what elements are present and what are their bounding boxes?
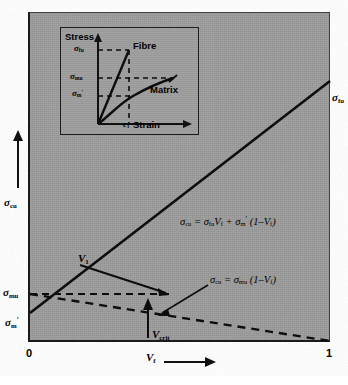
- y-tick-sigma-fu: σfu: [332, 92, 344, 104]
- matrix-equation: σcu = σmu (1–Vf): [210, 275, 276, 286]
- y-tick-sigma-mu: σmu: [3, 287, 18, 299]
- inset-sigma-m-prime-tick: σm′: [72, 89, 83, 99]
- inset-strain-axis-label: Strain: [133, 120, 160, 130]
- y-axis-label-sub: cu: [10, 202, 17, 209]
- y-tick-sigma-m-prime: σm′: [5, 317, 19, 329]
- v1-sub: 1: [85, 258, 88, 265]
- x-tick-one: 1: [326, 348, 332, 359]
- main-plot-area: Stress Strain Fibre Matrix σfu σmu σm′ ε…: [28, 12, 330, 342]
- inset-stress-axis-label: Stress: [65, 32, 94, 42]
- inset-sigma-fu-tick: σfu: [74, 44, 84, 54]
- composite-strength-figure: Stress Strain Fibre Matrix σfu σmu σm′ ε…: [0, 0, 348, 385]
- x-axis-arrow-graphic: [162, 354, 222, 370]
- vcrit-sub: crit: [159, 334, 169, 341]
- composite-equation: σcu = σfuVf + σm′ (1–Vf): [180, 216, 276, 228]
- x-axis-label-sub: f: [153, 357, 155, 364]
- v1-annotation: V1: [78, 253, 89, 265]
- inset-sigma-fu-sub: fu: [79, 47, 84, 53]
- inset-sigma-mu-sub: mu: [75, 75, 83, 81]
- x-tick-zero: 0: [26, 348, 32, 359]
- inset-sigma-m-prime-mark: ′: [82, 88, 84, 95]
- inset-matrix-label: Matrix: [150, 85, 178, 95]
- x-axis-label: Vf: [146, 352, 156, 364]
- inset-epsilon1-sub: 1: [127, 123, 130, 129]
- inset-fibre-label: Fibre: [133, 41, 156, 51]
- y-tick-sigma-fu-sub: fu: [338, 97, 344, 104]
- y-tick-sigma-m-prime-mark: ′: [17, 316, 19, 325]
- vcrit-annotation: Vcrit: [152, 329, 170, 341]
- inset-sigma-mu-tick: σmu: [70, 72, 83, 82]
- inset-epsilon1-tick: ε1: [123, 120, 130, 130]
- inset-stress-strain-chart: Stress Strain Fibre Matrix σfu σmu σm′ ε…: [60, 27, 199, 135]
- y-tick-sigma-mu-sub: mu: [9, 292, 18, 299]
- y-axis-label: σcu: [4, 197, 17, 209]
- y-axis-arrow-graphic: [8, 128, 28, 198]
